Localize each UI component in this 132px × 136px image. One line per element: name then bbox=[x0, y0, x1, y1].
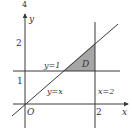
region-d-label: D bbox=[81, 59, 89, 69]
y-axis-label: y bbox=[28, 14, 35, 24]
region-d bbox=[63, 43, 95, 71]
coordinate-diagram: 4 y x O 2 1 2 y=1 x=2 y=x D bbox=[0, 0, 132, 136]
label-y-equals-x: y=x bbox=[46, 87, 63, 96]
y-tick-2: 2 bbox=[16, 38, 22, 48]
x-tick-2: 2 bbox=[96, 107, 102, 117]
origin-label: O bbox=[27, 107, 35, 117]
line-y-equals-x bbox=[12, 24, 118, 116]
x-axis-label: x bbox=[122, 107, 127, 117]
top-label: 4 bbox=[22, 0, 27, 9]
label-y-equals-1: y=1 bbox=[43, 61, 60, 70]
label-x-equals-2: x=2 bbox=[98, 87, 114, 96]
y-tick-1: 1 bbox=[17, 76, 23, 86]
